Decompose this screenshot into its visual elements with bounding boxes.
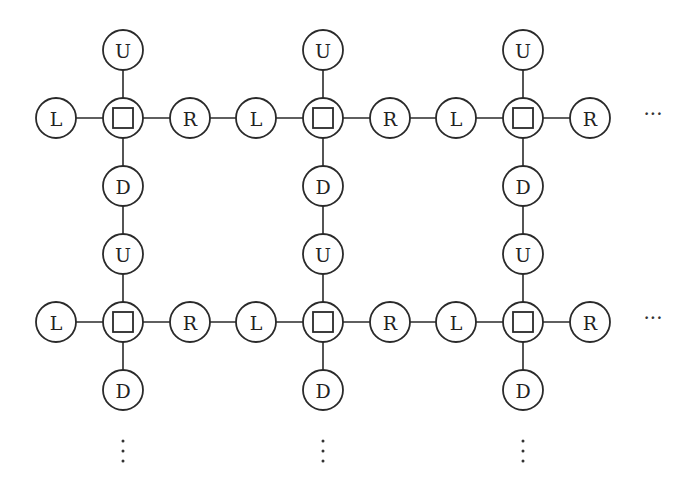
continuation-dots: ······: [122, 102, 663, 463]
node-right: R: [570, 98, 610, 138]
node-center: [503, 98, 543, 138]
node-down: D: [303, 166, 343, 206]
grid-diagram: UDLRUDLRUDLRUDLRUDLRUDLR······: [0, 0, 695, 478]
node-down: D: [103, 370, 143, 410]
node-right: R: [370, 302, 410, 342]
node-label: L: [50, 108, 63, 130]
node-center: [103, 302, 143, 342]
node-left: L: [236, 98, 276, 138]
vertical-ellipsis-dot: [522, 460, 525, 463]
vertical-ellipsis-dot: [322, 460, 325, 463]
node-left: L: [36, 302, 76, 342]
node-down: D: [503, 166, 543, 206]
node-up: U: [503, 30, 543, 70]
node-label: L: [250, 108, 263, 130]
vertical-ellipsis-dot: [122, 460, 125, 463]
node-up: U: [303, 30, 343, 70]
node-label: U: [115, 40, 131, 62]
node-left: L: [36, 98, 76, 138]
node-left: L: [436, 98, 476, 138]
node-label: L: [450, 312, 463, 334]
vertical-ellipsis-dot: [122, 450, 125, 453]
node-up: U: [103, 30, 143, 70]
node-right: R: [370, 98, 410, 138]
node-left: L: [436, 302, 476, 342]
node-label: D: [315, 176, 330, 198]
node-down: D: [503, 370, 543, 410]
node-label: U: [315, 40, 331, 62]
node-label: R: [383, 312, 398, 334]
node-label: L: [250, 312, 263, 334]
node-center: [303, 302, 343, 342]
node-label: U: [515, 40, 531, 62]
node-label: R: [183, 108, 198, 130]
node-label: D: [315, 380, 330, 402]
vertical-ellipsis-dot: [522, 450, 525, 453]
vertical-ellipsis-dot: [322, 440, 325, 443]
node-label: U: [315, 244, 331, 266]
node-label: D: [115, 380, 130, 402]
node-label: R: [183, 312, 198, 334]
node-up: U: [503, 234, 543, 274]
node-right: R: [170, 302, 210, 342]
horizontal-ellipsis: ···: [643, 102, 662, 126]
node-right: R: [170, 98, 210, 138]
vertical-ellipsis-dot: [522, 440, 525, 443]
horizontal-ellipsis: ···: [643, 306, 662, 330]
vertical-ellipsis-dot: [322, 450, 325, 453]
node-down: D: [103, 166, 143, 206]
node-label: D: [115, 176, 130, 198]
node-up: U: [103, 234, 143, 274]
node-label: R: [583, 108, 598, 130]
node-up: U: [303, 234, 343, 274]
node-label: L: [50, 312, 63, 334]
node-label: U: [115, 244, 131, 266]
node-label: U: [515, 244, 531, 266]
node-label: R: [383, 108, 398, 130]
node-center: [503, 302, 543, 342]
node-left: L: [236, 302, 276, 342]
node-right: R: [570, 302, 610, 342]
node-label: D: [515, 176, 530, 198]
node-center: [303, 98, 343, 138]
node-down: D: [303, 370, 343, 410]
node-label: R: [583, 312, 598, 334]
node-label: L: [450, 108, 463, 130]
vertical-ellipsis-dot: [122, 440, 125, 443]
node-center: [103, 98, 143, 138]
node-label: D: [515, 380, 530, 402]
